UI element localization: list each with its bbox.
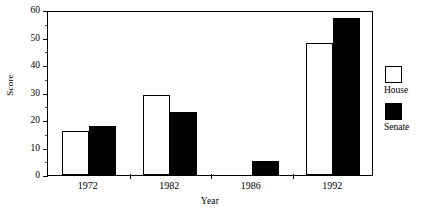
legend-label-senate: Senate: [384, 122, 428, 134]
y-tick-label: 60: [14, 6, 40, 16]
y-tick-label: 20: [14, 116, 40, 126]
legend-entry-senate: Senate: [384, 103, 428, 134]
bar-house-1992: [306, 43, 333, 175]
bar-chart-figure: Score 0102030405060 1972198219861992 Yea…: [0, 0, 428, 221]
caption-sliver: [126, 215, 428, 221]
y-tick-label: 10: [14, 144, 40, 154]
legend-label-house: House: [384, 85, 428, 97]
bar-house-1982: [143, 95, 170, 175]
x-tick-mark: [130, 174, 131, 179]
x-tick-label-1992: 1992: [322, 180, 342, 191]
y-tick-mark: [43, 176, 48, 177]
y-axis-tick-labels: 0102030405060: [14, 11, 40, 176]
bar-senate-1982: [170, 112, 197, 175]
y-tick-label: 40: [14, 61, 40, 71]
x-tick-label-1972: 1972: [78, 180, 98, 191]
x-tick-label-1986: 1986: [241, 180, 261, 191]
legend-swatch-senate-icon: [385, 103, 402, 120]
y-tick-label: 50: [14, 34, 40, 44]
chart-legend: House Senate: [384, 66, 428, 140]
bar-senate-1992: [333, 18, 360, 175]
plot-inner: [48, 12, 372, 175]
y-tick-label: 0: [14, 171, 40, 181]
plot-area: [47, 11, 373, 176]
bar-senate-1972: [89, 126, 116, 176]
y-tick-label: 30: [14, 89, 40, 99]
x-tick-mark: [211, 174, 212, 179]
bar-house-1972: [62, 131, 89, 175]
legend-swatch-house-icon: [385, 66, 402, 83]
x-axis-tick-labels: 1972198219861992: [47, 180, 373, 196]
x-tick-mark: [293, 174, 294, 179]
legend-entry-house: House: [384, 66, 428, 97]
x-axis-title: Year: [47, 196, 373, 206]
bar-senate-1986: [252, 161, 279, 175]
x-tick-label-1982: 1982: [159, 180, 179, 191]
